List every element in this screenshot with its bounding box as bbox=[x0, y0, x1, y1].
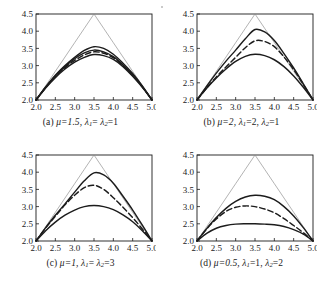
chart-svg-a: 2.02.53.03.54.04.55.02.02.53.03.54.04.5 bbox=[10, 8, 156, 116]
panel-caption-a: (a) μ=1.5, λ1= λ2=1 bbox=[0, 117, 161, 127]
svg-text:4.0: 4.0 bbox=[22, 26, 34, 36]
plot-area-c: 2.02.53.03.54.04.55.02.02.53.03.54.04.5 bbox=[10, 149, 156, 257]
chart-svg-d: 2.02.53.03.54.04.55.02.02.53.03.54.04.5 bbox=[171, 149, 317, 257]
svg-text:4.0: 4.0 bbox=[108, 102, 120, 112]
caption-label-d: (d) bbox=[200, 258, 211, 268]
caption-label-b: (b) bbox=[204, 117, 215, 127]
svg-text:5.0: 5.0 bbox=[307, 243, 317, 253]
svg-text:4.5: 4.5 bbox=[288, 243, 300, 253]
panel-a: 2.02.53.03.54.04.55.02.02.53.03.54.04.5 … bbox=[0, 0, 161, 141]
svg-text:3.5: 3.5 bbox=[22, 185, 34, 195]
series-upper-solid bbox=[197, 195, 313, 241]
caption-mid-d: =1, bbox=[250, 258, 265, 268]
series-lower-solid bbox=[197, 54, 313, 100]
panel-caption-b: (b) μ=2, λ1=2, λ2=1 bbox=[161, 117, 322, 127]
svg-text:2.0: 2.0 bbox=[183, 95, 195, 105]
svg-text:3.5: 3.5 bbox=[183, 185, 195, 195]
svg-text:3.5: 3.5 bbox=[249, 243, 261, 253]
panel-d: 2.02.53.03.54.04.55.02.02.53.03.54.04.5 … bbox=[161, 141, 322, 282]
svg-text:3.0: 3.0 bbox=[69, 102, 81, 112]
svg-text:3.0: 3.0 bbox=[183, 202, 195, 212]
panel-b: 2.02.53.03.54.04.55.02.02.53.03.54.04.5 … bbox=[161, 0, 322, 141]
caption-mu-d: μ=0.5, bbox=[214, 258, 240, 268]
caption-label-a: (a) bbox=[43, 117, 54, 127]
panel-caption-c: (c) μ=1, λ1= λ2=3 bbox=[0, 258, 161, 268]
caption-mu-a: μ=1.5, bbox=[56, 117, 82, 127]
svg-text:3.5: 3.5 bbox=[88, 243, 100, 253]
svg-text:3.0: 3.0 bbox=[183, 61, 195, 71]
plot-area-a: 2.02.53.03.54.04.55.02.02.53.03.54.04.5 bbox=[10, 8, 156, 116]
svg-text:3.0: 3.0 bbox=[22, 202, 34, 212]
series-envelope-triangle bbox=[197, 155, 313, 241]
svg-text:2.0: 2.0 bbox=[22, 236, 34, 246]
svg-text:3.0: 3.0 bbox=[230, 243, 242, 253]
svg-text:5.0: 5.0 bbox=[146, 243, 156, 253]
svg-text:3.5: 3.5 bbox=[249, 102, 261, 112]
svg-text:4.0: 4.0 bbox=[22, 167, 34, 177]
series-upper-solid bbox=[36, 173, 152, 241]
panel-caption-d: (d) μ=0.5, λ1=1, λ2=2 bbox=[161, 258, 322, 268]
caption-mid-b: =2, bbox=[246, 117, 261, 127]
svg-text:4.5: 4.5 bbox=[288, 102, 300, 112]
svg-text:2.5: 2.5 bbox=[183, 219, 195, 229]
figure-panel-grid: 2.02.53.03.54.04.55.02.02.53.03.54.04.5 … bbox=[0, 0, 322, 282]
svg-text:4.0: 4.0 bbox=[183, 26, 195, 36]
svg-text:4.5: 4.5 bbox=[127, 102, 139, 112]
caption-tail-b: =1 bbox=[269, 117, 279, 127]
series-upper-solid bbox=[197, 29, 313, 100]
plot-area-d: 2.02.53.03.54.04.55.02.02.53.03.54.04.5 bbox=[171, 149, 317, 257]
svg-text:2.0: 2.0 bbox=[22, 95, 34, 105]
panel-grid: 2.02.53.03.54.04.55.02.02.53.03.54.04.5 … bbox=[0, 0, 322, 282]
svg-text:3.5: 3.5 bbox=[183, 44, 195, 54]
svg-text:2.5: 2.5 bbox=[50, 102, 62, 112]
svg-text:3.5: 3.5 bbox=[88, 102, 100, 112]
series-envelope-triangle bbox=[36, 14, 152, 100]
panel-c: 2.02.53.03.54.04.55.02.02.53.03.54.04.5 … bbox=[0, 141, 161, 282]
svg-text:4.5: 4.5 bbox=[127, 243, 139, 253]
svg-text:4.0: 4.0 bbox=[183, 167, 195, 177]
caption-mu-c: μ=1, bbox=[60, 258, 79, 268]
caption-tail-c: =3 bbox=[104, 258, 114, 268]
caption-tail-d: =2 bbox=[273, 258, 283, 268]
svg-text:3.0: 3.0 bbox=[230, 102, 242, 112]
svg-text:4.5: 4.5 bbox=[183, 150, 195, 160]
svg-text:4.0: 4.0 bbox=[269, 102, 281, 112]
caption-label-c: (c) bbox=[46, 258, 57, 268]
svg-text:2.0: 2.0 bbox=[183, 236, 195, 246]
chart-svg-c: 2.02.53.03.54.04.55.02.02.53.03.54.04.5 bbox=[10, 149, 156, 257]
series-lower-solid bbox=[36, 206, 152, 241]
svg-text:2.5: 2.5 bbox=[50, 243, 62, 253]
series-envelope-triangle bbox=[36, 155, 152, 241]
chart-svg-b: 2.02.53.03.54.04.55.02.02.53.03.54.04.5 bbox=[171, 8, 317, 116]
svg-text:2.5: 2.5 bbox=[211, 102, 223, 112]
caption-mu-b: μ=2, bbox=[217, 117, 236, 127]
svg-text:3.0: 3.0 bbox=[22, 61, 34, 71]
svg-text:4.5: 4.5 bbox=[22, 9, 34, 19]
svg-text:3.0: 3.0 bbox=[69, 243, 81, 253]
series-envelope-triangle bbox=[197, 14, 313, 100]
svg-text:4.0: 4.0 bbox=[269, 243, 281, 253]
svg-text:3.5: 3.5 bbox=[22, 44, 34, 54]
svg-text:4.0: 4.0 bbox=[108, 243, 120, 253]
svg-text:5.0: 5.0 bbox=[307, 102, 317, 112]
svg-text:2.5: 2.5 bbox=[211, 243, 223, 253]
svg-text:2.5: 2.5 bbox=[183, 78, 195, 88]
svg-text:5.0: 5.0 bbox=[146, 102, 156, 112]
caption-tail-a: =1 bbox=[108, 117, 118, 127]
svg-text:2.5: 2.5 bbox=[22, 219, 34, 229]
svg-text:2.5: 2.5 bbox=[22, 78, 34, 88]
svg-text:4.5: 4.5 bbox=[22, 150, 34, 160]
caption-mid-c: = bbox=[89, 258, 97, 268]
plot-area-b: 2.02.53.03.54.04.55.02.02.53.03.54.04.5 bbox=[171, 8, 317, 116]
svg-text:4.5: 4.5 bbox=[183, 9, 195, 19]
